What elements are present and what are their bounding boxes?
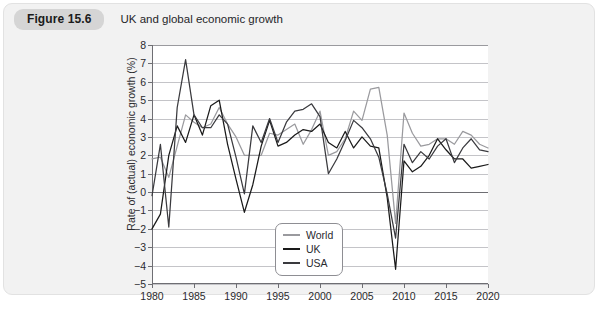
y-tick-label: 4 xyxy=(140,113,146,125)
x-tick-mark xyxy=(194,284,195,288)
y-tick-label: 3 xyxy=(140,131,146,143)
y-tick-label: −4 xyxy=(134,260,146,272)
x-tick-mark xyxy=(278,284,279,288)
x-tick-label: 2020 xyxy=(476,290,499,302)
chart-area: Rate of (actual) economic growth (%) −5−… xyxy=(109,34,529,292)
plot-area: −5−4−3−2−1012345678 19801985199019952000… xyxy=(152,45,488,284)
legend-label: UK xyxy=(306,243,321,255)
figure-number-badge: Figure 15.6 xyxy=(14,9,104,30)
x-tick-mark xyxy=(320,284,321,288)
legend-swatch-icon xyxy=(283,248,300,250)
x-tick-label: 2000 xyxy=(308,290,331,302)
legend-item-uk[interactable]: UK xyxy=(283,242,333,256)
chart-legend: WorldUKUSA xyxy=(275,223,343,276)
series-line-world xyxy=(152,87,488,223)
y-tick-label: −5 xyxy=(134,278,146,290)
x-tick-label: 2015 xyxy=(434,290,457,302)
y-tick-label: 8 xyxy=(140,39,146,51)
x-tick-label: 1990 xyxy=(224,290,247,302)
y-tick-label: 7 xyxy=(140,57,146,69)
x-tick-mark xyxy=(488,284,489,288)
figure-panel: Figure 15.6 UK and global economic growt… xyxy=(3,3,595,295)
y-axis-label: Rate of (actual) economic growth (%) xyxy=(125,34,137,254)
x-tick-label: 1985 xyxy=(182,290,205,302)
x-tick-mark xyxy=(404,284,405,288)
series-line-usa xyxy=(152,60,488,238)
legend-item-world[interactable]: World xyxy=(283,228,333,242)
x-tick-mark xyxy=(446,284,447,288)
x-tick-mark xyxy=(152,284,153,288)
legend-swatch-icon xyxy=(283,262,300,264)
legend-swatch-icon xyxy=(283,234,300,236)
y-tick-label: −2 xyxy=(134,223,146,235)
x-tick-label: 1980 xyxy=(140,290,163,302)
y-tick-label: 1 xyxy=(140,168,146,180)
y-tick-label: 6 xyxy=(140,76,146,88)
x-tick-mark xyxy=(362,284,363,288)
x-tick-label: 2005 xyxy=(350,290,373,302)
legend-label: USA xyxy=(306,257,328,269)
x-tick-mark xyxy=(236,284,237,288)
y-tick-label: 0 xyxy=(140,186,146,198)
figure-header: Figure 15.6 UK and global economic growt… xyxy=(4,4,283,34)
legend-label: World xyxy=(306,229,333,241)
legend-item-usa[interactable]: USA xyxy=(283,256,333,270)
y-tick-label: −1 xyxy=(134,204,146,216)
figure-title: UK and global economic growth xyxy=(120,13,282,25)
x-tick-label: 1995 xyxy=(266,290,289,302)
y-tick-label: 2 xyxy=(140,149,146,161)
y-tick-label: −3 xyxy=(134,241,146,253)
x-tick-label: 2010 xyxy=(392,290,415,302)
y-tick-label: 5 xyxy=(140,94,146,106)
